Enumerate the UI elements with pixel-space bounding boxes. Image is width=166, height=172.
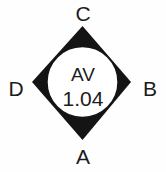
vertex-label-d: D <box>4 78 28 99</box>
center-measurement-value: 1.04 <box>48 88 118 109</box>
figure-container: C B A D AV 1.04 <box>0 0 166 172</box>
center-abbreviation-label: AV <box>48 65 118 84</box>
vertex-label-a: A <box>0 146 166 167</box>
vertex-label-c: C <box>0 3 166 24</box>
vertex-label-b: B <box>138 78 162 99</box>
